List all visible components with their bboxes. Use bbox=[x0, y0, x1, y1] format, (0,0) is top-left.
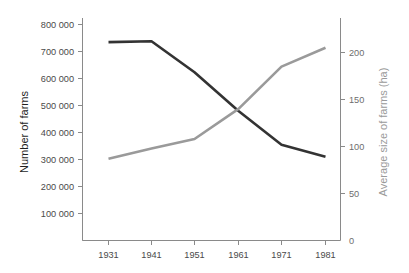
x-tick-label-1971: 1971 bbox=[271, 250, 291, 260]
left-tick-label-800000: 800 000 bbox=[41, 20, 74, 30]
chart-figure: 800 000 700 000 600 000 500 000 400 000 … bbox=[0, 0, 409, 273]
left-tick-label-300000: 300 000 bbox=[41, 155, 74, 165]
x-tick-label-1941: 1941 bbox=[141, 250, 161, 260]
left-tick-label-600000: 600 000 bbox=[41, 74, 74, 84]
right-tick-label-200: 200 bbox=[349, 48, 364, 58]
x-tick-label-1981: 1981 bbox=[315, 250, 335, 260]
right-tick-label-100: 100 bbox=[349, 142, 364, 152]
left-tick-label-400000: 400 000 bbox=[41, 128, 74, 138]
right-tick-label-50: 50 bbox=[349, 189, 359, 199]
right-tick-label-150: 150 bbox=[349, 95, 364, 105]
left-tick-label-200000: 200 000 bbox=[41, 182, 74, 192]
left-axis-title: Number of farms bbox=[18, 91, 30, 173]
right-tick-label-0: 0 bbox=[349, 236, 354, 246]
x-tick-label-1951: 1951 bbox=[184, 250, 204, 260]
line-chart-canvas: 800 000 700 000 600 000 500 000 400 000 … bbox=[0, 0, 409, 273]
left-tick-label-700000: 700 000 bbox=[41, 47, 74, 57]
left-tick-label-100000: 100 000 bbox=[41, 209, 74, 219]
x-tick-label-1961: 1961 bbox=[228, 250, 248, 260]
left-tick-label-500000: 500 000 bbox=[41, 101, 74, 111]
x-tick-label-1931: 1931 bbox=[98, 250, 118, 260]
right-axis-title: Average size of farms (ha) bbox=[377, 68, 389, 197]
